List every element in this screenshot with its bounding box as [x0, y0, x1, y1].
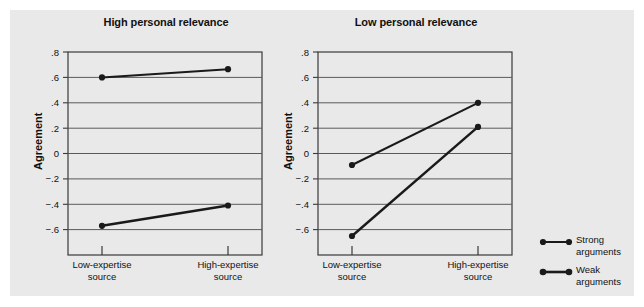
legend-label-line2: arguments [576, 276, 621, 287]
legend-marker-weak-arguments-icon [539, 265, 573, 279]
y-tick-label: .8 [301, 47, 309, 58]
chart-legend: Strong arguments Weak arguments [539, 234, 621, 294]
legend-label-line2: arguments [576, 246, 621, 257]
x-tick-marks-right [352, 246, 478, 255]
figure-background: High personal relevance Agreement [10, 10, 634, 296]
x-category-line1: High-expertise [197, 259, 258, 270]
legend-label-line1: Strong [576, 234, 604, 245]
y-tick-label: 0 [54, 148, 59, 159]
y-tick-label: 0 [304, 148, 309, 159]
series-strong-arguments-right [349, 100, 481, 168]
gridlines-left [68, 77, 262, 229]
legend-item-strong-arguments: Strong arguments [539, 234, 621, 257]
plot-area-right: .8 .6 .4 .2 0 −.2 −.4 −.6 [260, 10, 572, 296]
y-tick-label: .2 [301, 123, 309, 134]
y-tick-marks-right [313, 52, 318, 230]
y-tick-label: .4 [51, 97, 59, 108]
x-category-line2: source [464, 271, 493, 282]
y-tick-label: −.6 [296, 224, 309, 235]
series-strong-arguments-left [99, 66, 231, 80]
x-tick-marks-left [102, 246, 228, 255]
y-tick-label: .2 [51, 123, 59, 134]
x-category-line1: Low-expertise [322, 259, 381, 270]
chart-panel-low-relevance: Low personal relevance Agreement [260, 10, 572, 296]
legend-label-line1: Weak [576, 264, 600, 275]
y-tick-marks-left [63, 52, 68, 230]
x-category-high-expertise-right: High-expertise source [423, 259, 533, 282]
y-tick-label: .6 [51, 72, 59, 83]
x-category-low-expertise-right: Low-expertise source [297, 259, 407, 282]
y-tick-label: −.6 [46, 224, 59, 235]
y-tick-label: .6 [301, 72, 309, 83]
legend-label-strong-arguments: Strong arguments [576, 234, 621, 257]
legend-item-weak-arguments: Weak arguments [539, 264, 621, 287]
x-category-low-expertise-left: Low-expertise source [47, 259, 157, 282]
legend-label-weak-arguments: Weak arguments [576, 264, 621, 287]
x-category-line2: source [88, 271, 117, 282]
y-tick-label: −.2 [46, 173, 59, 184]
legend-marker-strong-arguments-icon [539, 235, 573, 249]
y-tick-label: −.4 [296, 199, 309, 210]
gridlines-right [318, 77, 512, 229]
x-category-line1: Low-expertise [72, 259, 131, 270]
x-category-line2: source [214, 271, 243, 282]
y-tick-label: .4 [301, 97, 309, 108]
y-tick-label: −.2 [296, 173, 309, 184]
x-category-line2: source [338, 271, 367, 282]
series-weak-arguments-left [99, 202, 231, 229]
y-tick-label: −.4 [46, 199, 59, 210]
y-tick-label: .8 [51, 47, 59, 58]
series-weak-arguments-right [349, 124, 481, 239]
x-category-line1: High-expertise [447, 259, 508, 270]
